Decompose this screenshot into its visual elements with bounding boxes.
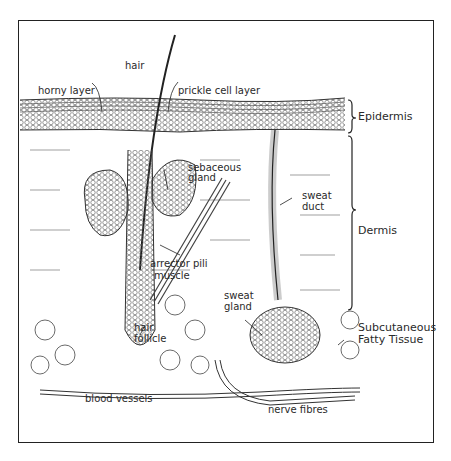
label-sweat-duct-2: duct (302, 201, 324, 212)
sweat-gland (250, 307, 320, 363)
label-hair: hair (125, 60, 144, 71)
sebaceous-gland-left (84, 170, 128, 236)
label-hair-follicle-2: follicle (134, 333, 166, 344)
epidermis-brace (348, 100, 356, 133)
label-horny-layer: horny layer (38, 85, 95, 96)
label-gland: gland (188, 172, 216, 183)
dermis-brace (348, 136, 356, 310)
label-sweat-gland-2: gland (224, 301, 252, 312)
label-arrector-pili-muscle: muscle (154, 270, 190, 281)
label-sweat-gland-1: sweat (224, 290, 254, 301)
label-fatty-tissue: Fatty Tissue (358, 334, 423, 346)
label-sweat-duct-1: sweat (302, 190, 332, 201)
nerve-fibre-line (215, 360, 355, 405)
label-prickle-cell-layer: prickle cell layer (178, 85, 260, 96)
label-nerve-fibres: nerve fibres (268, 404, 328, 415)
label-dermis: Dermis (358, 225, 397, 237)
label-epidermis: Epidermis (358, 111, 413, 123)
label-blood-vessels: blood vessels (85, 393, 153, 404)
label-arrector-pili: arrector pili (150, 258, 208, 269)
epidermis-layer (20, 98, 345, 132)
label-hair-follicle-1: hair (134, 322, 153, 333)
hair-follicle (125, 150, 155, 345)
